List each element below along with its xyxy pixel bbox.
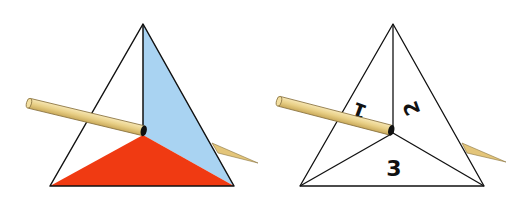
colored-tetrahedron: [25, 24, 258, 186]
diagram-canvas: 1 2 3: [0, 0, 516, 200]
numbered-tetrahedron: 1 2 3: [275, 24, 506, 186]
face-label-3: 3: [386, 156, 401, 181]
